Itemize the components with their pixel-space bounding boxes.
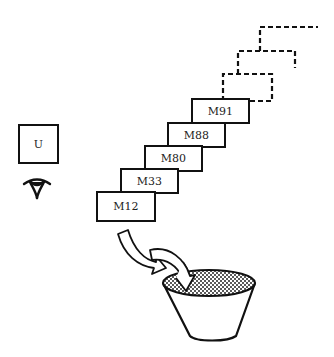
eye-icon <box>24 180 50 199</box>
step-label: M33 <box>137 175 162 188</box>
step-label: M91 <box>208 105 233 118</box>
stair-step-m12: M12 <box>96 191 156 222</box>
step-label: M12 <box>113 200 138 213</box>
future-steps-dashed <box>223 27 318 101</box>
step-label: M80 <box>161 152 186 165</box>
u-symbol-box: U <box>18 124 59 164</box>
step-label: M88 <box>184 129 209 142</box>
bucket-icon <box>163 270 255 341</box>
stair-step-m91: M91 <box>191 98 250 124</box>
u-label: U <box>34 138 43 151</box>
